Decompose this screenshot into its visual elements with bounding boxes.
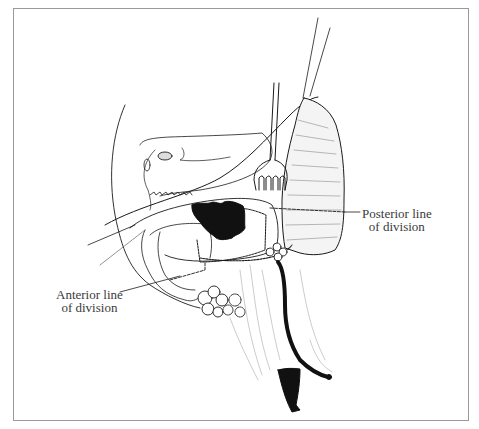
bottom-plug — [278, 368, 300, 412]
pointer-line-lower — [100, 230, 145, 265]
upper-node-cluster — [266, 243, 287, 261]
ear-fold — [144, 150, 155, 210]
pointer-line-upper — [88, 225, 135, 245]
fibrous-strands — [230, 265, 332, 380]
anterior-label-line2: of division — [56, 301, 123, 314]
posterior-line-label: Posterior line of division — [362, 207, 432, 233]
tissue-block — [282, 98, 344, 255]
anterior-line-label: Anterior line of division — [56, 288, 123, 314]
anterior-pointer — [120, 276, 180, 292]
duct-end — [327, 375, 332, 380]
posterior-label-line2: of division — [362, 220, 432, 233]
head-contour — [112, 105, 200, 308]
inner-flap — [150, 223, 212, 258]
lymph-node-cluster — [198, 286, 245, 317]
ear-opening — [158, 152, 172, 160]
strap-inner — [158, 232, 195, 290]
flap-curve — [180, 148, 230, 161]
duct-tube — [278, 262, 328, 377]
tumor-mass — [192, 201, 245, 239]
upper-flap — [140, 133, 272, 196]
suture-line-1 — [303, 18, 318, 98]
fork-retractor — [254, 83, 287, 190]
suture-line-2 — [310, 28, 330, 96]
